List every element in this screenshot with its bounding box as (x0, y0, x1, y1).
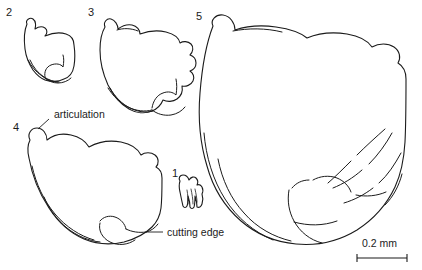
figure-drawing-canvas: 2 3 4 (0, 0, 422, 270)
specimen-4-number: 4 (13, 121, 19, 133)
callout-articulation-label: articulation (54, 108, 105, 120)
specimen-5-drawing: 5 (196, 10, 406, 244)
figure-panel: 2 3 4 (0, 0, 422, 270)
specimen-2-number: 2 (6, 6, 12, 18)
callout-cutting-edge-label: cutting edge (167, 226, 224, 238)
callout-articulation: articulation (38, 108, 105, 129)
specimen-3-drawing: 3 (88, 6, 196, 115)
specimen-1-drawing: 1 (172, 167, 203, 209)
specimen-3-number: 3 (88, 6, 94, 18)
specimen-2-drawing: 2 (6, 6, 75, 83)
scale-bar-label: 0.2 mm (362, 237, 397, 249)
callout-cutting-edge: cutting edge (146, 226, 224, 238)
scale-bar: 0.2 mm (357, 237, 407, 262)
specimen-4-drawing: 4 (13, 121, 162, 244)
specimen-1-number: 1 (172, 167, 178, 179)
specimen-5-number: 5 (196, 10, 202, 22)
